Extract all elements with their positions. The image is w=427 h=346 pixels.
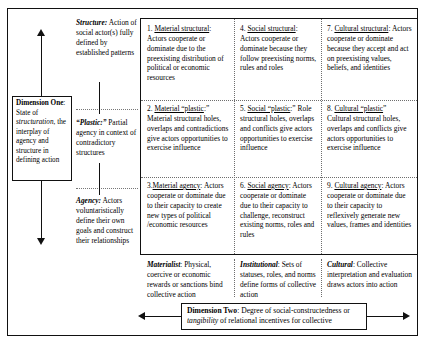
- matrix-cell-1-number: 1.: [147, 24, 153, 33]
- matrix-cell-1-tail: :: [209, 24, 211, 33]
- row-label-agency-lead: Agency:: [76, 196, 101, 205]
- matrix-cell-9-heading: Cultural agency: [334, 181, 381, 190]
- dimension-two-lead: Dimension Two: [187, 306, 237, 315]
- axis-line-down: [41, 181, 42, 243]
- matrix-cell-4-tail: :: [296, 24, 298, 33]
- matrix-cell-9-tail: :: [381, 181, 383, 190]
- matrix-cell-6-number: 6.: [240, 181, 246, 190]
- dimension-one-lead: Dimension One: [16, 99, 63, 107]
- row-label-divider-dots-1: [76, 109, 138, 110]
- matrix-cell-5: 5. Social “plastic:” Role structural hol…: [235, 101, 322, 178]
- matrix-cell-1: 1. Material structural: Actors cooperate…: [142, 21, 235, 101]
- row-label-plastic: “Plastic:” Partial agency in context of …: [76, 118, 138, 158]
- column-label-institutional-lead: Institutional: [240, 260, 278, 269]
- matrix-cell-9: 9. Cultural agency: Actors cooperate or …: [322, 178, 416, 253]
- axis-line-left: [145, 316, 181, 317]
- matrix-cell-1-heading: Material structural: [154, 24, 209, 33]
- matrix-cell-4-number: 4.: [240, 24, 246, 33]
- axis-arrow-right-icon: [403, 312, 410, 320]
- matrix-cell-8-number: 8.: [327, 104, 333, 113]
- matrix-cell-8: 8. Cultural “plastic” Cultural structura…: [322, 101, 416, 178]
- row-label-plastic-lead: “Plastic:”: [76, 118, 106, 127]
- row-label-agency: Agency: Actors voluntaristically define …: [76, 196, 138, 246]
- matrix-cell-6-heading: Social agency: [247, 181, 288, 190]
- matrix-cell-1-body: Actors cooperate or dominate due to the …: [147, 34, 224, 82]
- matrix-cell-4-heading: Social structural: [247, 24, 295, 33]
- matrix-cell-8-tail: ”: [383, 104, 386, 113]
- typology-diagram: Dimension One: State of structuration, t…: [0, 0, 427, 346]
- axis-line-right: [367, 316, 403, 317]
- matrix-cell-5-heading: Social “plastic: [247, 104, 290, 113]
- matrix-cell-7-tail: :: [388, 24, 390, 33]
- matrix-cell-5-tail: :”: [290, 104, 295, 113]
- matrix-cell-2-number: 2.: [147, 104, 153, 113]
- column-label-cultural-lead: Cultural: [327, 260, 353, 269]
- axis-arrow-down-icon: [37, 238, 45, 245]
- matrix-cell-2-body: Material structural holes, overlaps and …: [147, 114, 228, 153]
- row-label-divider-dots-2: [76, 188, 138, 189]
- matrix-cell-7-number: 7.: [327, 24, 333, 33]
- matrix-cell-2-heading: Material “plastic: [154, 104, 203, 113]
- matrix-cell-4: 4. Social structural: Actors cooperate o…: [235, 21, 322, 101]
- dimension-two-box: Dimension Two: Degree of social-construc…: [181, 303, 367, 330]
- row-label-structure-lead: Structure:: [76, 18, 107, 27]
- matrix-cell-4-body: Actors cooperate or dominate because the…: [240, 34, 316, 73]
- axis-line-up: [41, 34, 42, 96]
- column-label-institutional: Institutional: Sets of statuses, roles, …: [235, 260, 322, 299]
- matrix-cell-8-body: Cultural structural holes, overlaps and …: [327, 114, 406, 153]
- column-label-cultural: Cultural: Collective interpretation and …: [322, 260, 416, 290]
- matrix-cell-6-tail: :: [289, 181, 291, 190]
- matrix-cell-9-number: 9.: [327, 181, 333, 190]
- axis-arrow-left-icon: [138, 312, 145, 320]
- matrix-cell-3-tail: :: [200, 181, 202, 190]
- row-label-connector-1: [99, 82, 100, 114]
- matrix-cell-6: 6. Social agency: Actors cooperate or do…: [235, 178, 322, 253]
- column-label-materialist: Materialist: Physical, coercive or econo…: [142, 260, 235, 299]
- matrix-cell-7: 7. Cultural structural: Actors cooperate…: [322, 21, 416, 101]
- dimension-one-body: : State of structuration, the interplay …: [16, 99, 66, 164]
- matrix-cell-2: 2. Material “plastic:” Material structur…: [142, 101, 235, 178]
- row-label-connector-2: [99, 163, 100, 195]
- matrix-cell-8-heading: Cultural “plastic: [334, 104, 383, 113]
- matrix-cell-5-number: 5.: [240, 104, 246, 113]
- matrix-cell-2-tail: :”: [204, 104, 209, 113]
- column-label-materialist-lead: Materialist: [147, 260, 180, 269]
- row-label-structure: Structure: Action of social actor(s) ful…: [76, 18, 138, 58]
- matrix-cell-3: 3.Material agency: Actors cooperate or d…: [142, 178, 235, 253]
- dimension-one-box: Dimension One: State of structuration, t…: [12, 96, 72, 181]
- matrix-cell-7-heading: Cultural structural: [334, 24, 388, 33]
- matrix-cell-3-heading: Material agency: [153, 181, 201, 190]
